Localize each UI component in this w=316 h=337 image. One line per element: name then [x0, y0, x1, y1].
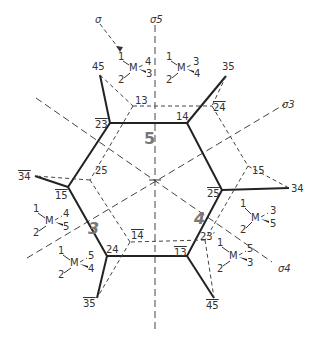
- sigma-arrow: [100, 24, 120, 50]
- outer-45: 45: [92, 61, 105, 72]
- ligand-permutation-diagram: σ σ5 σ3 σ4 23 14 25 13 24 15 45 35 34 45…: [0, 0, 316, 337]
- svg-text:5: 5: [270, 218, 276, 229]
- svg-text:4: 4: [194, 68, 200, 79]
- svg-text:2: 2: [240, 224, 246, 235]
- svg-text:M: M: [70, 257, 79, 268]
- molecule-3: 1 2 M 4 5: [33, 203, 69, 238]
- outer-34bar: 34: [18, 171, 31, 182]
- svg-text:4: 4: [145, 56, 151, 67]
- inner-25: 25: [95, 165, 108, 176]
- molecule-5: 1 2 M 3 5: [240, 198, 276, 235]
- svg-text:5: 5: [63, 221, 69, 232]
- molecule-4: 1 2 M 5 4: [58, 245, 94, 280]
- inner-14bar: 14: [131, 230, 144, 241]
- inner-23prime: 23′: [200, 231, 216, 242]
- sigma3-label: σ3: [282, 99, 295, 110]
- molecule-6: 1 2 M 5 3: [217, 237, 253, 274]
- region-5: 5: [144, 129, 155, 148]
- outer-34: 34: [291, 183, 304, 194]
- svg-text:5: 5: [88, 250, 94, 261]
- vertex-24: 24: [106, 244, 119, 255]
- svg-text:1: 1: [33, 203, 39, 214]
- svg-text:M: M: [45, 215, 54, 226]
- outer-45bar: 45: [206, 300, 219, 311]
- svg-text:3: 3: [247, 257, 253, 268]
- svg-text:M: M: [229, 250, 238, 261]
- svg-text:M: M: [177, 62, 186, 73]
- molecule-2: 1 2 M 3 4: [166, 51, 200, 85]
- svg-text:M: M: [251, 212, 260, 223]
- svg-text:1: 1: [166, 51, 172, 62]
- inner-13: 13: [135, 95, 148, 106]
- svg-text:2: 2: [118, 74, 124, 85]
- svg-text:1: 1: [217, 237, 223, 248]
- region-3: 3: [88, 219, 99, 238]
- outer-35bar: 35: [83, 298, 96, 309]
- svg-text:3: 3: [146, 68, 152, 79]
- svg-text:1: 1: [118, 51, 124, 62]
- region-4: 4: [193, 209, 205, 228]
- svg-text:1: 1: [58, 245, 64, 256]
- sigma-arrow-label: σ: [95, 14, 102, 25]
- svg-text:2: 2: [33, 227, 39, 238]
- sigma5-label: σ5: [150, 14, 163, 25]
- vertex-23bar: 23: [95, 119, 108, 130]
- outer-35: 35: [222, 61, 235, 72]
- sigma4-label: σ4: [278, 263, 291, 274]
- inner-24bar: 24: [213, 102, 226, 113]
- svg-text:4: 4: [88, 263, 94, 274]
- svg-text:M: M: [129, 62, 138, 73]
- vertex-14: 14: [176, 111, 189, 122]
- vertex-25bar: 25: [207, 188, 220, 199]
- svg-text:4: 4: [63, 208, 69, 219]
- svg-text:1: 1: [240, 198, 246, 209]
- vertex-13bar: 13: [174, 247, 187, 258]
- svg-text:5: 5: [247, 243, 253, 254]
- svg-text:2: 2: [58, 269, 64, 280]
- svg-text:2: 2: [217, 263, 223, 274]
- svg-text:3: 3: [270, 205, 276, 216]
- svg-text:2: 2: [166, 74, 172, 85]
- inner-15: 15: [252, 165, 265, 176]
- svg-text:3: 3: [193, 56, 199, 67]
- vertex-15bar: 15: [55, 190, 68, 201]
- molecule-1: 1 2 M 4 3: [118, 51, 152, 85]
